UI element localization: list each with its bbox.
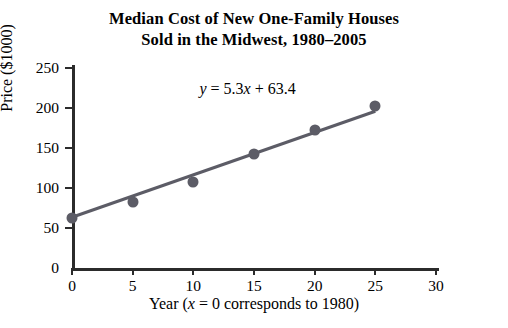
x-tick-label: 0 xyxy=(68,277,76,295)
y-tick-label: 200 xyxy=(36,99,59,117)
data-point xyxy=(309,125,320,136)
x-tick-label: 25 xyxy=(368,277,384,295)
y-tick-mark xyxy=(65,107,72,109)
equation-y: y xyxy=(199,80,206,97)
data-point xyxy=(249,149,260,160)
data-point xyxy=(67,212,78,223)
chart-title-line2: Sold in the Midwest, 1980–2005 xyxy=(0,29,508,50)
trendline-equation: y = 5.3x + 63.4 xyxy=(199,80,295,98)
data-point xyxy=(370,101,381,112)
x-axis-title-var: x xyxy=(188,295,195,312)
y-tick-mark xyxy=(65,227,72,229)
y-tick-mark xyxy=(65,187,72,189)
data-point xyxy=(127,197,138,208)
x-axis-title-prefix: Year ( xyxy=(149,295,188,312)
x-tick-mark xyxy=(192,268,194,275)
y-axis-title: Price ($1000) xyxy=(0,0,16,168)
y-tick-label: 50 xyxy=(44,219,60,237)
x-axis-title: Year (x = 0 corresponds to 1980) xyxy=(0,295,508,313)
chart-title-line1: Median Cost of New One-Family Houses xyxy=(0,8,508,29)
x-tick-label: 5 xyxy=(129,277,137,295)
y-tick-label: 250 xyxy=(36,59,59,77)
x-tick-label: 30 xyxy=(428,277,444,295)
x-tick-mark xyxy=(314,268,316,275)
y-tick-label: 150 xyxy=(36,139,59,157)
data-point xyxy=(188,177,199,188)
x-tick-label: 10 xyxy=(186,277,202,295)
y-tick-label: 0 xyxy=(51,259,59,277)
x-axis-line xyxy=(72,268,439,271)
equation-rest: + 63.4 xyxy=(251,80,296,97)
y-tick-mark xyxy=(65,67,72,69)
equation-x: x xyxy=(244,80,251,97)
x-tick-label: 15 xyxy=(246,277,262,295)
x-axis-title-suffix: = 0 corresponds to 1980) xyxy=(195,295,359,312)
chart-figure: Median Cost of New One-Family Houses Sol… xyxy=(0,0,508,328)
y-tick-mark xyxy=(65,147,72,149)
x-tick-mark xyxy=(71,268,73,275)
x-tick-mark xyxy=(374,268,376,275)
y-tick-label: 100 xyxy=(36,179,59,197)
equation-eq: = 5.3 xyxy=(207,80,244,97)
plot-area: 051015202530 050100150200250 y = 5.3x + … xyxy=(72,68,436,268)
x-tick-mark xyxy=(253,268,255,275)
x-tick-mark xyxy=(435,268,437,275)
x-tick-label: 20 xyxy=(307,277,323,295)
x-tick-mark xyxy=(132,268,134,275)
